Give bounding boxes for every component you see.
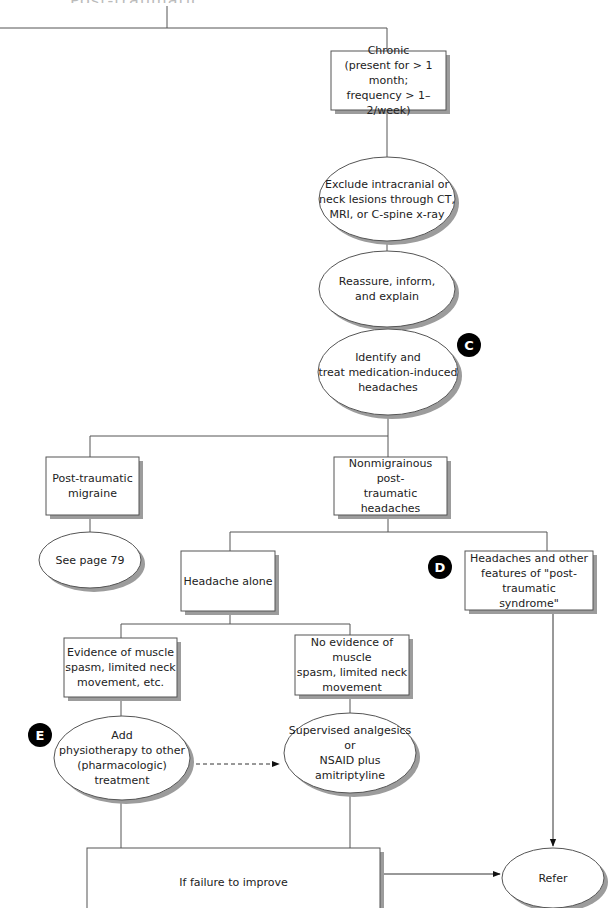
refer-node: Refer: [502, 848, 604, 908]
migraine-line: Post-traumatic: [52, 471, 132, 486]
evidence-spasm-node: Evidence of musclespasm, limited neckmov…: [64, 638, 177, 697]
see-page-link[interactable]: See page 79: [56, 553, 125, 568]
headache-alone-node: Headache alone: [181, 551, 275, 611]
badge-d: D: [428, 555, 452, 579]
post-traumatic-syndrome-node: Headaches and otherfeatures of "post-tra…: [465, 551, 593, 610]
add-physio-line: treatment: [59, 773, 185, 788]
exclude-line: neck lesions through CT,: [319, 192, 455, 207]
evidence-line: movement, etc.: [65, 675, 176, 690]
exclude-line: Exclude intracranial or: [319, 177, 455, 192]
see-page-node[interactable]: See page 79: [39, 532, 141, 588]
chronic-line: Chronic: [331, 43, 446, 58]
identify-medication-node: Identify andtreat medication-inducedhead…: [318, 329, 458, 415]
no-evidence-line: No evidence of muscle: [295, 635, 409, 665]
supervised-line: NSAID plus amitriptyline: [284, 753, 416, 783]
add-physio-line: physiotherapy to other: [59, 743, 185, 758]
badge-e: E: [28, 723, 52, 747]
evidence-line: spasm, limited neck: [65, 660, 176, 675]
identify-line: Identify and: [318, 350, 457, 365]
headache-alone-line: Headache alone: [183, 574, 272, 589]
failure-line: If failure to improve: [179, 875, 287, 890]
post-traumatic-migraine-node: Post-traumaticmigraine: [46, 457, 139, 515]
reassure-line: and explain: [339, 289, 435, 304]
add-physio-line: Add: [59, 728, 185, 743]
supervised-line: Supervised analgesics or: [284, 723, 416, 753]
nonmigrainous-line: Nonmigrainous post-: [334, 456, 447, 486]
identify-line: treat medication-induced: [318, 365, 457, 380]
identify-line: headaches: [318, 380, 457, 395]
no-evidence-line: spasm, limited neck: [295, 665, 409, 680]
failure-to-improve-node: If failure to improve: [87, 848, 380, 908]
migraine-line: migraine: [52, 486, 132, 501]
reassure-node: Reassure, inform,and explain: [319, 251, 455, 327]
add-physio-line: (pharmacologic): [59, 758, 185, 773]
refer-line: Refer: [538, 871, 567, 886]
no-evidence-spasm-node: No evidence of musclespasm, limited neck…: [295, 635, 409, 695]
exclude-lesions-node: Exclude intracranial orneck lesions thro…: [319, 157, 455, 241]
chronic-node: Chronic(present for > 1 month;frequency …: [331, 51, 446, 110]
syndrome-line: features of "post-traumatic: [465, 566, 593, 596]
evidence-line: Evidence of muscle: [65, 645, 176, 660]
nonmigrainous-node: Nonmigrainous post-traumatic headaches: [334, 457, 447, 515]
chronic-line: frequency > 1–2/week): [331, 88, 446, 118]
syndrome-line: syndrome": [465, 596, 593, 611]
reassure-line: Reassure, inform,: [339, 274, 435, 289]
no-evidence-line: movement: [295, 680, 409, 695]
nonmigrainous-line: traumatic headaches: [334, 486, 447, 516]
add-physio-node: Addphysiotherapy to other(pharmacologic)…: [54, 716, 190, 800]
syndrome-line: Headaches and other: [465, 551, 593, 566]
supervised-analgesics-node: Supervised analgesics orNSAID plus amitr…: [284, 713, 416, 793]
badge-c: C: [457, 333, 481, 357]
chronic-line: (present for > 1 month;: [331, 58, 446, 88]
exclude-line: MRI, or C-spine x-ray: [319, 207, 455, 222]
